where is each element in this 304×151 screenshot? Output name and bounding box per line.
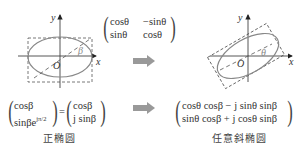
matrix-r1c2: −sinθ — [143, 15, 166, 28]
left-lhs-r2-exp: jπ/2 — [36, 115, 46, 122]
left-x-label: x — [96, 56, 100, 67]
matrix-r1c1: cosθ — [110, 15, 143, 28]
arrow-icon-bottom — [133, 102, 155, 114]
left-angle-label: β — [78, 45, 83, 56]
equals-sign: = — [59, 105, 65, 118]
left-rhs-r1: cosβ — [73, 99, 96, 112]
arrow-icon-top — [133, 55, 155, 67]
right-r1: cosθ cosβ − j sinθ sinβ — [182, 99, 277, 112]
left-lhs-r1: cosβ — [14, 99, 46, 112]
right-origin-label: O — [237, 58, 244, 69]
matrix-r2c2: cosθ — [143, 28, 162, 41]
left-rhs-r2: j sinβ — [73, 112, 96, 125]
left-origin-label: O — [53, 60, 60, 71]
right-paren: ) — [170, 12, 176, 42]
right-angle-label: θ — [261, 47, 266, 58]
right-y-label: y — [238, 12, 242, 23]
caption-standard-ellipse: 正椭圆 — [43, 130, 76, 145]
right-r2: sinθ cosβ + j cosθ sinβ — [182, 112, 277, 125]
right-ellipse-plot — [208, 15, 292, 89]
left-paren: ( — [103, 12, 109, 42]
matrix-r2c1: sinθ — [110, 28, 143, 41]
right-x-label: x — [289, 56, 293, 67]
left-ellipse-plot — [18, 15, 96, 82]
caption-arbitrary-tilted-ellipse: 任意斜椭圆 — [212, 130, 267, 145]
left-y-label: y — [51, 12, 55, 23]
left-lhs-r2: sinβe — [14, 117, 36, 128]
